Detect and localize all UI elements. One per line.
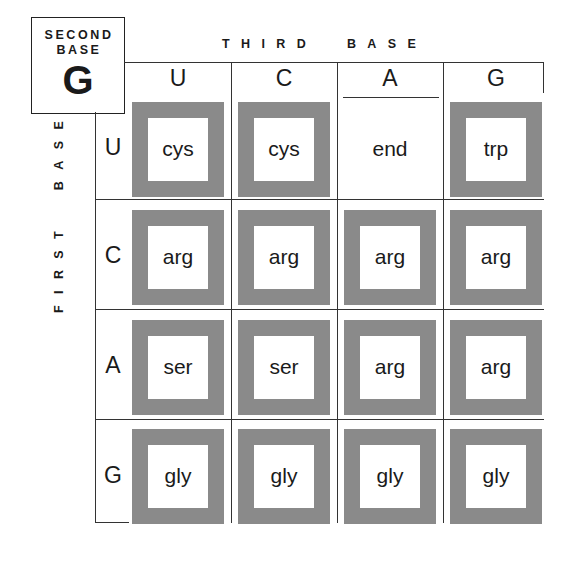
- cell-ca: arg: [337, 202, 443, 312]
- amino-acid-box: arg: [238, 210, 330, 305]
- second-base-box: SECOND BASE G: [31, 17, 125, 114]
- third-base-label: THIRD BASE: [222, 37, 427, 51]
- cell-ga: gly: [337, 421, 443, 531]
- column-header-g: G: [443, 64, 549, 92]
- amino-acid-box: arg: [344, 320, 436, 415]
- first-base-label: FIRST BASE: [52, 110, 66, 313]
- cell-gc: gly: [231, 421, 337, 531]
- cell-au: ser: [125, 312, 231, 422]
- second-base-label-line1: SECOND: [32, 28, 124, 43]
- amino-acid-box: arg: [132, 210, 224, 305]
- stop-codon-label: end: [344, 102, 436, 197]
- cell-uc: cys: [231, 94, 337, 204]
- amino-acid-box: cys: [238, 102, 330, 197]
- amino-acid-box: gly: [344, 429, 436, 524]
- amino-acid-box: ser: [132, 320, 224, 415]
- amino-acid-box: gly: [238, 429, 330, 524]
- amino-acid-box: arg: [344, 210, 436, 305]
- cell-aa: arg: [337, 312, 443, 422]
- column-header-a: A: [337, 64, 443, 92]
- column-header-u: U: [125, 64, 231, 92]
- amino-acid-box: gly: [132, 429, 224, 524]
- cell-ua: end: [337, 94, 443, 204]
- cell-ag: arg: [443, 312, 549, 422]
- amino-acid-box: cys: [132, 102, 224, 197]
- second-base-label-line2: BASE: [32, 43, 124, 58]
- cell-cu: arg: [125, 202, 231, 312]
- bottom-left-line: [95, 522, 129, 523]
- cell-uu: cys: [125, 94, 231, 204]
- amino-acid-box: trp: [450, 102, 542, 197]
- cell-gg: gly: [443, 421, 549, 531]
- column-header-c: C: [231, 64, 337, 92]
- cell-gu: gly: [125, 421, 231, 531]
- amino-acid-box: arg: [450, 210, 542, 305]
- cell-ug: trp: [443, 94, 549, 204]
- cell-ac: ser: [231, 312, 337, 422]
- cell-cc: arg: [231, 202, 337, 312]
- amino-acid-box: ser: [238, 320, 330, 415]
- cell-cg: arg: [443, 202, 549, 312]
- amino-acid-box: gly: [450, 429, 542, 524]
- second-base-letter: G: [32, 60, 124, 100]
- amino-acid-box: arg: [450, 320, 542, 415]
